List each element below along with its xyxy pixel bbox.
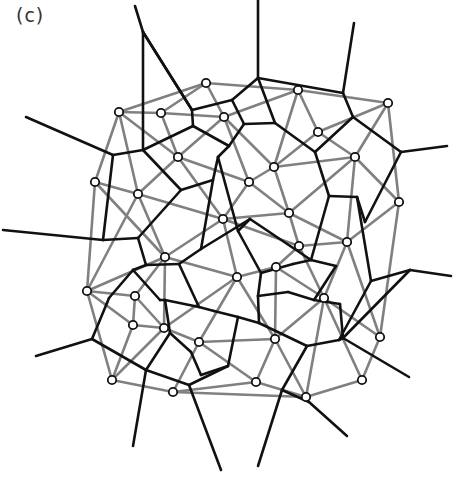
site-node <box>320 294 328 302</box>
site-node <box>233 273 241 281</box>
delaunay-edge <box>87 194 138 291</box>
site-node <box>271 335 279 343</box>
delaunay-edge <box>224 117 249 182</box>
delaunay-edge <box>237 277 275 339</box>
site-node <box>351 153 359 161</box>
voronoi-edge <box>307 340 339 346</box>
site-node <box>174 153 182 161</box>
voronoi-edge <box>282 346 307 390</box>
delaunay-edge <box>256 339 275 382</box>
delaunay-edge <box>298 90 318 132</box>
delaunay-edge <box>87 182 95 291</box>
delaunay-edge <box>388 103 399 202</box>
delaunay-edge <box>223 219 299 246</box>
site-node <box>91 178 99 186</box>
site-node <box>395 198 403 206</box>
site-node <box>83 287 91 295</box>
site-node <box>108 376 116 384</box>
voronoi-edge <box>103 238 138 240</box>
voronoi-edge <box>365 152 401 222</box>
delaunay-edge <box>274 90 298 167</box>
voronoi-ray <box>3 230 103 240</box>
site-node <box>160 324 168 332</box>
voronoi-edge <box>232 100 244 124</box>
site-node <box>134 190 142 198</box>
site-node <box>358 376 366 384</box>
site-node <box>131 292 139 300</box>
voronoi-edge <box>192 110 193 126</box>
site-node <box>220 113 228 121</box>
voronoi-edge <box>189 366 228 385</box>
voronoi-ray <box>258 390 282 466</box>
site-node <box>294 86 302 94</box>
voronoi-ray <box>36 339 92 356</box>
voronoi-edge <box>311 196 329 260</box>
delaunay-edge <box>355 157 399 202</box>
site-node <box>219 215 227 223</box>
voronoi-edge <box>258 273 261 296</box>
site-node <box>161 253 169 261</box>
site-node <box>285 209 293 217</box>
voronoi-ray <box>343 23 354 93</box>
delaunay-edge <box>324 242 347 298</box>
delaunay-edge <box>289 157 355 213</box>
voronoi-edge <box>238 317 259 323</box>
delaunay-edge <box>206 83 224 117</box>
delaunay-edge <box>178 117 224 157</box>
voronoi-edge <box>329 196 357 197</box>
delaunay-edge <box>138 157 178 194</box>
site-node <box>157 109 165 117</box>
site-node <box>129 321 137 329</box>
voronoi-edge <box>138 238 146 265</box>
site-node <box>343 238 351 246</box>
voronoi-edge <box>357 197 371 281</box>
site-node <box>245 178 253 186</box>
voronoi-edge <box>258 292 288 296</box>
voronoi-edge <box>201 219 250 249</box>
delaunay-edge <box>347 242 380 337</box>
voronoi-edge <box>250 219 311 260</box>
voronoi-edge <box>191 352 201 375</box>
voronoi-ray <box>410 270 451 276</box>
delaunay-edge <box>119 112 161 113</box>
site-node <box>169 388 177 396</box>
delaunay-edge <box>165 219 223 257</box>
delaunay-edge <box>275 267 276 339</box>
site-node <box>252 378 260 386</box>
site-node <box>202 79 210 87</box>
voronoi-edge <box>179 264 199 307</box>
voronoi-edge <box>259 323 307 346</box>
voronoi-edge <box>146 264 179 265</box>
voronoi-edge <box>214 311 238 317</box>
delaunay-edge <box>95 112 119 182</box>
voronoi-edge <box>244 123 275 124</box>
site-node <box>384 99 392 107</box>
voronoi-ray <box>143 32 192 110</box>
voronoi-edge <box>218 146 229 157</box>
delaunay-edge <box>306 298 324 397</box>
site-node <box>195 338 203 346</box>
voronoi-edge <box>192 100 232 110</box>
delaunay-edge <box>306 380 362 397</box>
voronoi-edge <box>288 292 314 300</box>
voronoi-ray <box>133 370 146 446</box>
voronoi-edge <box>311 260 336 266</box>
delaunay-edge <box>87 291 112 380</box>
voronoi-ray <box>135 6 143 32</box>
delaunay-edge <box>119 83 206 112</box>
voronoi-edge <box>179 249 201 264</box>
voronoi-edge <box>146 333 170 370</box>
voronoi-ray <box>401 146 447 152</box>
voronoi-edge <box>199 307 214 311</box>
voronoi-ray <box>309 402 347 436</box>
voronoi-edge <box>165 300 199 307</box>
site-node <box>376 333 384 341</box>
site-node <box>295 242 303 250</box>
voronoi-ray <box>189 385 221 470</box>
delaunay-edge <box>164 257 165 328</box>
site-node <box>115 108 123 116</box>
site-node <box>272 263 280 271</box>
voronoi-edge <box>258 296 259 323</box>
voronoi-edge <box>103 155 113 240</box>
voronoi-edge <box>232 78 258 100</box>
